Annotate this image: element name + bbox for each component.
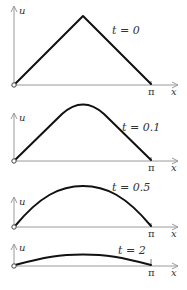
time-label: t = 0.1 <box>122 121 160 134</box>
origin-marker <box>12 159 16 163</box>
panel-t0-5: u π x t = 0.5 <box>12 181 178 239</box>
origin-marker <box>12 264 16 268</box>
x-axis-label: x <box>171 228 177 239</box>
time-label: t = 2 <box>118 244 146 257</box>
time-label: t = 0 <box>112 24 140 37</box>
heat-equation-figure: u π x t = 0 u π x t = 0.1 u π x t = 0.5 … <box>0 0 187 290</box>
origin-marker <box>12 83 16 87</box>
u-axis-label: u <box>19 196 25 207</box>
pi-label: π <box>148 228 155 239</box>
x-axis-label: x <box>171 86 177 97</box>
pi-label: π <box>148 267 155 278</box>
origin-marker <box>12 225 16 229</box>
u-axis-label: u <box>19 112 25 123</box>
pi-label: π <box>148 86 155 97</box>
x-axis-label: x <box>171 267 177 278</box>
u-axis-label: u <box>19 5 25 16</box>
panel-t0-1: u π x t = 0.1 <box>12 105 178 174</box>
panel-t0: u π x t = 0 <box>12 5 178 97</box>
pi-label: π <box>148 162 155 173</box>
time-label: t = 0.5 <box>112 181 150 194</box>
x-axis-label: x <box>171 162 177 173</box>
u-axis-label: u <box>19 242 25 253</box>
panel-t2: u π x t = 2 <box>12 242 178 278</box>
